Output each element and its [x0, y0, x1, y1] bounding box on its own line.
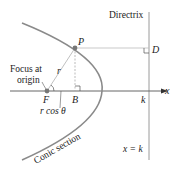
right-angle-b [75, 86, 80, 91]
diagram-canvas: Directrix P D Focus at origin r F B r co… [0, 0, 173, 175]
point-p [73, 46, 78, 51]
point-d-label: D [151, 44, 160, 55]
k-label: k [141, 94, 146, 105]
right-angle-d [144, 48, 149, 53]
conic-section-diagram: Directrix P D Focus at origin r F B r co… [0, 0, 173, 175]
r-label: r [57, 66, 61, 76]
point-b-label: B [72, 94, 78, 105]
theta-arc [51, 85, 54, 91]
point-p-label: P [77, 36, 84, 47]
directrix-label: Directrix [109, 10, 144, 20]
x-axis-label: x [164, 85, 170, 96]
focus-label-line1: Focus at [10, 64, 42, 74]
point-f [45, 89, 50, 94]
x-eq-k-label: x = k [122, 144, 143, 154]
conic-section-label: Conic section [32, 131, 82, 166]
focus-label-line2: origin [17, 75, 40, 85]
rcos-label: r cos θ [40, 106, 66, 116]
point-f-label: F [42, 94, 50, 105]
radius-line [47, 48, 75, 91]
focus-leader [42, 82, 46, 89]
